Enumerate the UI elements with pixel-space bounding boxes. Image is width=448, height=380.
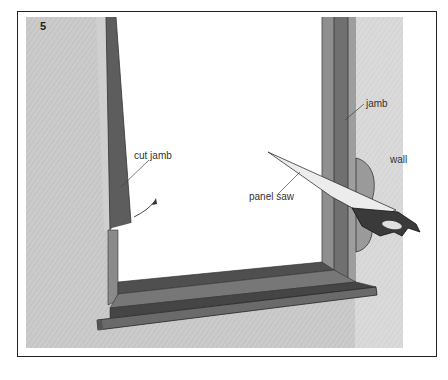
figure-number: 5 (40, 20, 46, 32)
label-jamb: jamb (366, 98, 388, 109)
left-jamb-stub (108, 230, 118, 305)
illustration (0, 0, 448, 380)
label-cut-jamb: cut jamb (134, 150, 172, 161)
label-wall: wall (390, 154, 407, 165)
label-panel-saw: panel saw (249, 191, 294, 202)
right-jamb (322, 17, 356, 289)
